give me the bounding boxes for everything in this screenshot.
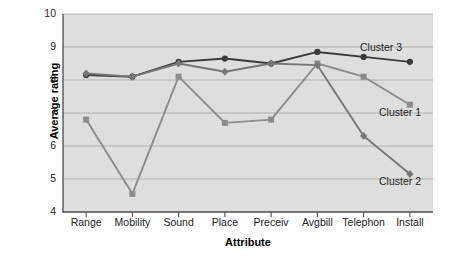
data-point-cluster-3-avgbill bbox=[314, 49, 320, 55]
data-point-cluster-3-place bbox=[222, 55, 228, 61]
x-axis-title: Attribute bbox=[63, 236, 433, 248]
series-label-cluster-3: Cluster 3 bbox=[360, 41, 402, 53]
data-point-cluster-1-mobility bbox=[129, 191, 135, 197]
series-label-cluster-2: Cluster 2 bbox=[379, 175, 421, 187]
data-point-cluster-3-install bbox=[407, 59, 413, 65]
data-point-cluster-1-place bbox=[222, 120, 228, 126]
y-tick-label-9: 9 bbox=[32, 40, 56, 52]
data-point-cluster-1-sound bbox=[176, 74, 182, 80]
chart-container: Average rating 10 9 8 7 6 5 4 Range Mobi… bbox=[0, 0, 458, 259]
x-tick-label-install: Install bbox=[375, 216, 445, 228]
y-tick-label-10: 10 bbox=[32, 7, 56, 19]
y-tick-label-5: 5 bbox=[32, 172, 56, 184]
series-label-cluster-1: Cluster 1 bbox=[379, 106, 421, 118]
data-point-cluster-1-telephon bbox=[361, 74, 367, 80]
y-tick-label-6: 6 bbox=[32, 139, 56, 151]
data-point-cluster-3-telephon bbox=[361, 54, 367, 60]
y-tick-label-7: 7 bbox=[32, 106, 56, 118]
data-point-cluster-1-range bbox=[83, 117, 89, 123]
data-point-cluster-1-preceiv bbox=[268, 117, 274, 123]
y-tick-label-8: 8 bbox=[32, 73, 56, 85]
